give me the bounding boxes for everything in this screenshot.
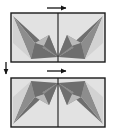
panel-top — [11, 13, 105, 62]
diagram-canvas — [0, 0, 114, 133]
top-right-half — [58, 13, 105, 62]
panel-bottom — [11, 78, 105, 127]
bottom-right-half — [58, 78, 105, 127]
top-left-half — [11, 13, 58, 62]
bottom-left-half — [11, 78, 58, 127]
